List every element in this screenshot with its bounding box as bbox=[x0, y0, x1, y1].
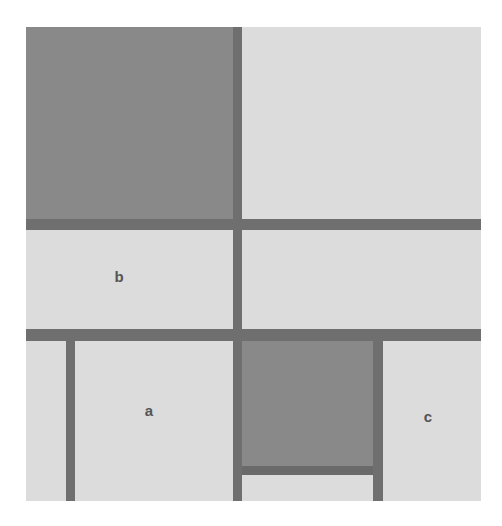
grid-canvas: b a c bbox=[26, 27, 481, 501]
top-left-dark-panel bbox=[26, 27, 233, 219]
lower-horizontal-line bbox=[26, 329, 481, 341]
upper-horizontal-line bbox=[26, 219, 481, 230]
panel-b bbox=[26, 230, 233, 329]
bottom-strip-panel bbox=[242, 475, 373, 501]
bottom-center-dark-panel bbox=[242, 341, 373, 466]
right-vertical-line bbox=[373, 341, 383, 501]
middle-right-panel bbox=[242, 230, 481, 329]
top-right-light-panel bbox=[242, 27, 481, 219]
label-a: a bbox=[145, 403, 153, 418]
label-b: b bbox=[114, 269, 123, 284]
dark-panel-bottom-line bbox=[242, 466, 373, 475]
center-vertical-line bbox=[233, 27, 242, 501]
left-vertical-line bbox=[66, 341, 75, 501]
label-c: c bbox=[424, 409, 432, 424]
